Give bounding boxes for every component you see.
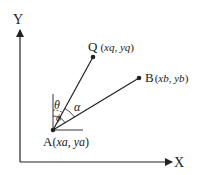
y-axis-label: Y xyxy=(13,12,23,27)
point-a xyxy=(51,128,56,133)
point-q-coords: (xq, yq) xyxy=(100,41,134,54)
point-b-label: B(xb, yb) xyxy=(145,70,189,85)
x-axis-label: X xyxy=(174,155,184,170)
alpha-arc xyxy=(65,109,75,118)
point-a-label: A(xa, ya) xyxy=(43,134,89,149)
theta-label: θ xyxy=(54,98,60,112)
alpha-label: α xyxy=(74,100,81,114)
point-q-label: Q(xq, yq) xyxy=(88,39,134,54)
point-q xyxy=(91,55,96,60)
point-b xyxy=(137,76,142,81)
point-q-name: Q xyxy=(88,39,98,54)
vector-ab xyxy=(53,78,139,130)
vector-angle-diagram: Y X θ ϕ α A(xa, ya) Q(xq, yq) B(xb, yb) xyxy=(0,0,205,175)
point-b-coords: (xb, yb) xyxy=(155,72,189,85)
point-a-coords: (xa, ya) xyxy=(52,135,89,149)
point-b-name: B xyxy=(145,70,154,85)
phi-label: ϕ xyxy=(56,112,61,123)
